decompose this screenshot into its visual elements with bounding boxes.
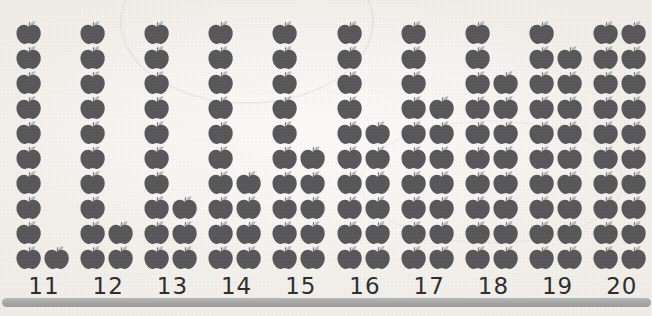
apple-icon <box>15 45 42 70</box>
apple-icon <box>207 145 234 170</box>
apple-icon <box>15 95 42 120</box>
apple-icon <box>336 170 363 195</box>
apple-icon <box>235 220 262 245</box>
apple-icon <box>43 245 70 270</box>
apple-icon <box>464 95 491 120</box>
apple-icon <box>299 145 326 170</box>
apple-icon <box>271 45 298 70</box>
apple-icon <box>143 20 170 45</box>
group-label-14: 14 <box>207 275 267 298</box>
apple-icon <box>620 170 647 195</box>
apple-stack-right <box>299 145 327 270</box>
apple-icon <box>364 170 391 195</box>
group-label-15: 15 <box>271 275 331 298</box>
apple-icon <box>592 45 619 70</box>
apple-icon <box>79 95 106 120</box>
apple-icon <box>299 195 326 220</box>
apple-icon <box>207 120 234 145</box>
apple-stack-right <box>427 95 455 270</box>
apple-icon <box>299 170 326 195</box>
apple-icon <box>336 45 363 70</box>
apple-stack-left <box>142 20 170 270</box>
apple-icon <box>207 45 234 70</box>
apple-icon <box>171 245 198 270</box>
apple-stacks <box>335 14 395 270</box>
apple-icon <box>143 95 170 120</box>
apple-icon <box>620 145 647 170</box>
apple-icon <box>592 220 619 245</box>
group-label-16: 16 <box>335 275 395 298</box>
apple-icon <box>528 170 555 195</box>
apple-icon <box>428 245 455 270</box>
apple-icon <box>15 245 42 270</box>
apple-icon <box>464 20 491 45</box>
apple-icon <box>364 195 391 220</box>
apple-icon <box>464 45 491 70</box>
apple-icon <box>464 220 491 245</box>
apple-stack-right <box>620 20 648 270</box>
apple-stacks <box>463 14 523 270</box>
apple-icon <box>364 220 391 245</box>
apple-icon <box>528 245 555 270</box>
group-label-19: 19 <box>528 275 588 298</box>
apple-icon <box>143 245 170 270</box>
group-label-18: 18 <box>463 275 523 298</box>
apple-icon <box>400 220 427 245</box>
apple-icon <box>271 70 298 95</box>
apple-icon <box>464 145 491 170</box>
apple-icon <box>79 245 106 270</box>
apple-icon <box>528 120 555 145</box>
apple-icon <box>620 120 647 145</box>
apple-stack-left <box>271 20 299 270</box>
apple-icon <box>299 220 326 245</box>
apple-icon <box>620 20 647 45</box>
apple-icon <box>556 170 583 195</box>
group-label-12: 12 <box>78 275 138 298</box>
apple-icon <box>528 95 555 120</box>
apple-icon <box>79 145 106 170</box>
apple-icon <box>620 45 647 70</box>
apple-icon <box>15 70 42 95</box>
apple-icon <box>528 145 555 170</box>
apple-icon <box>271 95 298 120</box>
apple-icon <box>400 145 427 170</box>
apple-icon <box>336 145 363 170</box>
apple-stack-right <box>170 195 198 270</box>
apple-icon <box>528 195 555 220</box>
apple-icon <box>620 70 647 95</box>
apple-icon <box>492 220 519 245</box>
apple-icon <box>592 120 619 145</box>
apple-icon <box>528 20 555 45</box>
group-label-17: 17 <box>399 275 459 298</box>
apple-icon <box>299 245 326 270</box>
apple-icon <box>400 95 427 120</box>
apple-icon <box>592 95 619 120</box>
apple-icon <box>271 170 298 195</box>
apple-icon <box>336 120 363 145</box>
apple-stack-left <box>592 20 620 270</box>
apple-icon <box>556 45 583 70</box>
apple-icon <box>400 245 427 270</box>
apple-icon <box>400 170 427 195</box>
apple-stack-left <box>207 20 235 270</box>
apple-icon <box>107 245 134 270</box>
apple-stack-left <box>399 20 427 270</box>
apple-stack-right <box>363 120 391 270</box>
apple-icon <box>336 95 363 120</box>
apple-icon <box>79 70 106 95</box>
apple-icon <box>464 170 491 195</box>
group-label-11: 11 <box>14 275 74 298</box>
apple-icon <box>592 245 619 270</box>
apple-icon <box>620 245 647 270</box>
apple-icon <box>207 95 234 120</box>
apple-icon <box>492 170 519 195</box>
apple-icon <box>492 120 519 145</box>
apple-icon <box>556 245 583 270</box>
apple-icon <box>428 145 455 170</box>
apple-icon <box>492 245 519 270</box>
apple-icon <box>400 20 427 45</box>
apple-icon <box>592 145 619 170</box>
group-label-20: 20 <box>592 275 652 298</box>
apple-icon <box>592 70 619 95</box>
apple-icon <box>492 145 519 170</box>
